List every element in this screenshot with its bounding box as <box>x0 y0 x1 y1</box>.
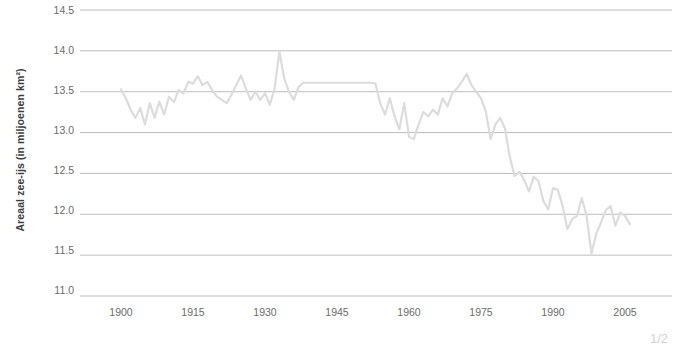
sea-ice-area-line-chart: Areaal zee-ijs (in miljoenen km²) 14.5 1… <box>0 0 676 346</box>
page-number: 1/2 <box>650 331 668 346</box>
gridlines <box>80 10 672 296</box>
plot-area <box>0 0 676 346</box>
series-line-sea-ice-area <box>121 52 630 254</box>
